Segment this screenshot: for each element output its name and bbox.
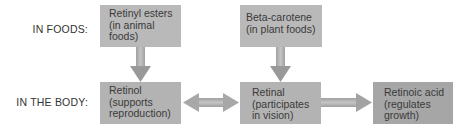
- box-line: Retinyl esters: [109, 8, 181, 20]
- arrow-retinyl-to-retinol-icon: [130, 47, 151, 82]
- box-line: Retinoic acid: [384, 87, 453, 99]
- arrow-retinol-retinal-bidirectional-icon: [183, 93, 239, 112]
- box-retinoic-acid: Retinoic acid (regulates growth): [373, 82, 453, 124]
- box-line: Retinol: [109, 85, 181, 97]
- arrow-retinal-to-retinoic-icon: [321, 93, 372, 112]
- box-retinyl-esters: Retinyl esters (in animal foods): [100, 5, 181, 47]
- box-line: (in plant foods): [246, 24, 322, 36]
- box-line: Retinal: [252, 87, 321, 99]
- box-line: foods): [109, 31, 181, 43]
- box-line: reproduction): [109, 108, 181, 120]
- box-retinol: Retinol (supports reproduction): [100, 82, 181, 124]
- box-retinal: Retinal (participates in vision): [240, 82, 321, 124]
- box-line: Beta-carotene: [246, 12, 322, 24]
- box-line: in vision): [252, 110, 321, 122]
- box-line: growth): [384, 110, 453, 122]
- box-beta-carotene: Beta-carotene (in plant foods): [240, 5, 322, 47]
- arrow-betacarotene-to-retinal-icon: [270, 47, 291, 82]
